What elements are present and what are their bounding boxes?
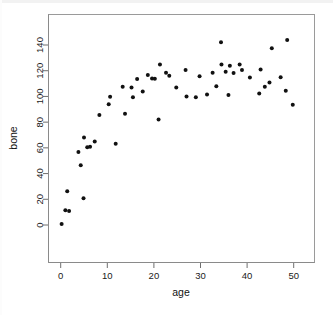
data-point	[135, 77, 139, 81]
y-axis-tick-label: 140	[34, 37, 45, 53]
chart-canvas: 020406080100120140 01020304050 age bone	[0, 0, 333, 315]
data-point	[167, 74, 171, 78]
data-point	[130, 85, 134, 89]
data-point	[270, 46, 274, 50]
x-axis-tick-label: 50	[288, 270, 299, 281]
data-point	[248, 75, 252, 79]
data-point	[97, 113, 101, 117]
data-point	[228, 64, 232, 68]
x-axis-tick-label: 0	[58, 270, 63, 281]
x-axis-title: age	[172, 286, 190, 298]
data-point	[232, 71, 236, 75]
y-axis-tick-label: 120	[34, 63, 45, 79]
data-point	[267, 81, 271, 85]
data-point	[211, 71, 215, 75]
y-axis-tick-label: 20	[34, 194, 45, 205]
data-point	[198, 74, 202, 78]
data-point	[226, 93, 230, 97]
y-axis-tick-label: 40	[34, 168, 45, 179]
data-point	[141, 90, 145, 94]
data-point	[153, 77, 157, 81]
data-point	[205, 93, 209, 97]
data-point	[259, 67, 263, 71]
data-point	[238, 63, 242, 67]
x-axis-tick-label: 40	[242, 270, 253, 281]
data-point	[174, 85, 178, 89]
data-point	[121, 85, 125, 89]
data-point	[82, 196, 86, 200]
x-axis-tick-label: 20	[149, 270, 160, 281]
data-point	[257, 91, 261, 95]
data-point	[291, 103, 295, 107]
data-point	[158, 63, 162, 67]
data-point	[194, 95, 198, 99]
data-point	[224, 70, 228, 74]
data-point	[131, 95, 135, 99]
data-point	[108, 95, 112, 99]
plot-panel-border	[49, 15, 315, 263]
data-point	[214, 84, 218, 88]
data-point	[285, 38, 289, 42]
y-axis-tick-label: 0	[34, 222, 45, 227]
x-axis-tick-label: 10	[102, 270, 113, 281]
data-point	[65, 189, 69, 193]
data-point	[263, 85, 267, 89]
data-point	[240, 68, 244, 72]
data-point	[219, 63, 223, 67]
data-point	[146, 73, 150, 77]
data-point	[123, 112, 127, 116]
data-point	[79, 163, 83, 167]
scatter-plot-figure: 020406080100120140 01020304050 age bone	[0, 0, 333, 315]
data-point	[67, 209, 71, 213]
data-point	[63, 208, 67, 212]
data-points-layer	[60, 38, 295, 226]
data-point	[284, 89, 288, 93]
data-point	[82, 136, 86, 140]
y-axis: 020406080100120140	[34, 15, 49, 263]
data-point	[60, 222, 64, 226]
data-point	[76, 150, 80, 154]
y-axis-title: bone	[7, 126, 19, 150]
x-axis-tick-label: 30	[195, 270, 206, 281]
data-point	[88, 145, 92, 149]
data-point	[114, 142, 118, 146]
data-point	[107, 102, 111, 106]
x-axis: 01020304050	[49, 263, 315, 281]
data-point	[157, 118, 161, 122]
data-point	[164, 71, 168, 75]
data-point	[219, 40, 223, 44]
data-point	[279, 75, 283, 79]
y-axis-tick-label: 80	[34, 117, 45, 128]
y-axis-tick-label: 100	[34, 89, 45, 105]
data-point	[93, 139, 97, 143]
y-axis-tick-label: 60	[34, 143, 45, 154]
data-point	[184, 68, 188, 72]
data-point	[185, 94, 189, 98]
